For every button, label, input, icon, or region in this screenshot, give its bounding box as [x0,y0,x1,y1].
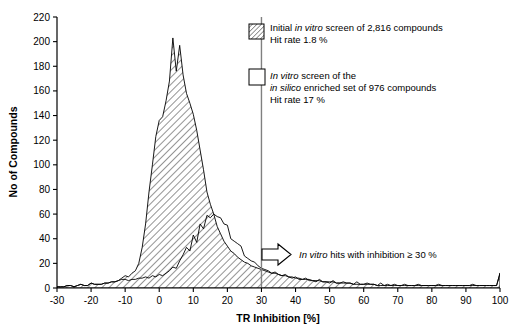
legend-entry-2-hitrate: Hit rate 17 % [270,94,325,105]
x-tick-label: 50 [324,295,336,306]
distribution-chart: 020406080100120140160180200220 -30-20-10… [0,0,516,333]
x-tick-label: 20 [222,295,234,306]
x-tick-label: 90 [460,295,472,306]
x-tick-label: -10 [118,295,133,306]
x-tick-label: 40 [290,295,302,306]
y-tick-label: 200 [33,36,50,47]
y-tick-label: 120 [33,135,50,146]
legend-entry-2-label-line1: In vitro screen of the [270,70,356,81]
x-tick-label: 60 [358,295,370,306]
legend-entry-2-label-line2: in silico enriched set of 976 compounds [270,82,437,93]
hits-annotation-label: In vitro hits with inhibition ≥ 30 % [299,249,437,260]
x-tick-label: 100 [492,295,509,306]
y-tick-label: 140 [33,110,50,121]
y-tick-label: 100 [33,159,50,170]
legend-entry-1-hitrate: Hit rate 1.8 % [270,34,328,45]
y-tick-label: 80 [39,184,51,195]
y-tick-label: 0 [44,283,50,294]
y-tick-label: 40 [39,233,51,244]
x-tick-label: 70 [392,295,404,306]
legend-entry-1-label: Initial in vitro screen of 2,816 compoun… [270,22,443,33]
y-tick-label: 220 [33,12,50,23]
x-axis-title: TR Inhibition [%] [236,312,319,324]
y-axis-title: No of Compounds [7,106,19,197]
y-tick-label: 20 [39,258,51,269]
y-tick-label: 180 [33,61,50,72]
y-tick-label: 60 [39,209,51,220]
legend-swatch-empty [249,69,265,85]
x-tick-label: 10 [188,295,200,306]
x-tick-label: 0 [156,295,162,306]
chart-figure: 020406080100120140160180200220 -30-20-10… [0,0,516,333]
x-tick-label: -30 [50,295,65,306]
y-tick-label: 160 [33,85,50,96]
x-tick-label: 30 [256,295,268,306]
legend-swatch-hatched [249,24,264,39]
x-tick-label: -20 [84,295,99,306]
x-tick-label: 80 [426,295,438,306]
